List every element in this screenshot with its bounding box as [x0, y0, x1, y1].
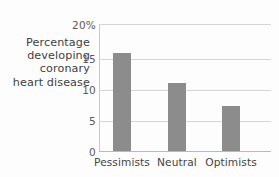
y-tick-label-15: 15 — [36, 53, 96, 65]
bar-neutral — [168, 83, 186, 151]
bar-optimists — [222, 106, 240, 152]
bar-pessimists — [113, 53, 131, 151]
y-axis-line — [99, 24, 100, 152]
x-axis-line — [99, 151, 271, 152]
x-tick-label-optimists: Optimists — [186, 156, 276, 168]
bar-chart-figure: Percentage developing coronary heart dis… — [0, 0, 279, 177]
plot-area — [99, 24, 271, 152]
gridline-20 — [99, 24, 271, 25]
y-tick-label-20: 20% — [36, 19, 96, 31]
y-tick-label-10: 10 — [36, 84, 96, 96]
y-tick-label-5: 5 — [36, 115, 96, 127]
